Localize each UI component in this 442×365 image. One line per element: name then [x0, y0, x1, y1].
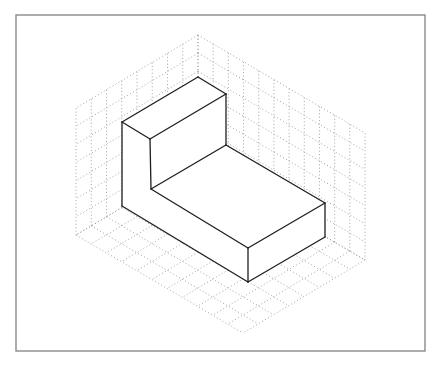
solid-face-fill — [122, 77, 325, 282]
drawing-canvas — [0, 0, 442, 365]
l-shaped-solid — [122, 77, 325, 282]
